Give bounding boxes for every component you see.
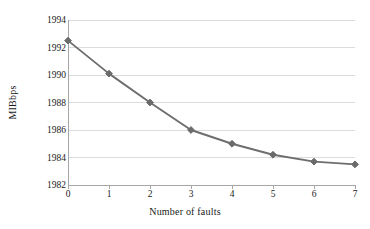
x-tick-marks <box>68 185 355 189</box>
plot-area <box>0 0 370 229</box>
line-chart: 1994 1992 1990 1988 1986 1984 1982 0 1 2… <box>0 0 370 229</box>
